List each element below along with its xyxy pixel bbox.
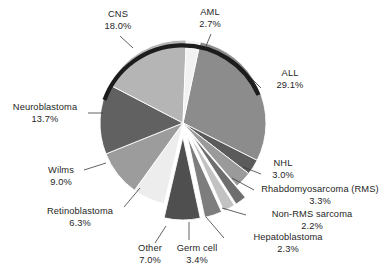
label-rms-value: 3.3%	[309, 196, 331, 206]
leader-line-hepatoblastoma	[206, 217, 224, 238]
label-retinoblastoma-value: 6.3%	[69, 218, 91, 228]
label-cns-value: 18.0%	[105, 21, 132, 31]
label-germ-cell-name: Germ cell	[177, 243, 218, 253]
label-hepatoblastoma-name: Hepatoblastoma	[253, 232, 323, 242]
label-nhl-name: NHL	[274, 158, 293, 168]
label-neuroblastoma-value: 13.7%	[32, 114, 59, 124]
label-other-name: Other	[138, 243, 162, 253]
pie-chart-figure: CNS 18.0% AML 2.7% ALL 29.1% NHL 3.0% Rh…	[0, 0, 390, 279]
leader-line-wilms	[84, 163, 106, 170]
label-neuroblastoma-name: Neuroblastoma	[13, 102, 78, 112]
label-rms-name: Rhabdomyosarcoma (RMS)	[261, 184, 378, 194]
label-other-value: 7.0%	[139, 255, 161, 265]
leader-line-non-rms-sarcoma	[222, 208, 246, 215]
label-nhl-value: 3.0%	[272, 170, 294, 180]
label-aml-name: AML	[200, 7, 219, 17]
label-all-value: 29.1%	[277, 80, 304, 90]
label-wilms-name: Wilms	[48, 165, 74, 175]
label-retinoblastoma-name: Retinoblastoma	[47, 206, 114, 216]
label-cns-name: CNS	[108, 9, 128, 19]
label-germ-cell-value: 3.4%	[186, 255, 208, 265]
label-non-rms-sarcoma-name: Non-RMS sarcoma	[272, 209, 353, 219]
leader-line-other	[155, 226, 166, 243]
label-wilms-value: 9.0%	[50, 177, 72, 187]
pie-chart-svg: CNS 18.0% AML 2.7% ALL 29.1% NHL 3.0% Rh…	[0, 0, 390, 279]
label-hepatoblastoma-value: 2.3%	[277, 244, 299, 254]
leader-line-retinoblastoma	[124, 188, 140, 207]
label-aml-value: 2.7%	[199, 19, 221, 29]
leader-line-cns	[120, 36, 133, 48]
label-non-rms-sarcoma-value: 2.2%	[301, 221, 323, 231]
label-all-name: ALL	[282, 68, 299, 78]
